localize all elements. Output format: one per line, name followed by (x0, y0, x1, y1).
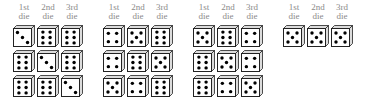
column-label: 1stdie (102, 3, 126, 21)
column-label-die: die (282, 12, 306, 21)
die-face-six-icon (193, 75, 215, 97)
die-face-six-icon (127, 50, 149, 72)
die-face-six-icon (61, 25, 83, 47)
dice-group-4: 1stdie2nddie3rddie (283, 0, 363, 105)
column-label: 2nddie (126, 3, 150, 21)
column-label: 3rddie (60, 3, 84, 21)
column-label-die: die (60, 12, 84, 21)
die-face-six-icon (61, 50, 83, 72)
column-label-die: die (126, 12, 150, 21)
column-label-die: die (216, 12, 240, 21)
dice-group-2: 1stdie2nddie3rddie (103, 0, 183, 105)
die-face-six-icon (37, 75, 59, 97)
die-face-four-icon (103, 25, 125, 47)
die-face-three-icon (61, 75, 83, 97)
die-face-four-icon (241, 25, 263, 47)
die-face-five-icon (331, 25, 353, 47)
die-face-six-icon (13, 75, 35, 97)
column-label-die: die (192, 12, 216, 21)
die-face-five-icon (241, 75, 263, 97)
column-label: 3rddie (330, 3, 354, 21)
column-label: 2nddie (36, 3, 60, 21)
column-label: 3rddie (240, 3, 264, 21)
die-face-four-icon (217, 75, 239, 97)
column-label-die: die (330, 12, 354, 21)
die-face-six-icon (193, 50, 215, 72)
column-label: 3rddie (150, 3, 174, 21)
column-label-die: die (102, 12, 126, 21)
die-face-five-icon (193, 25, 215, 47)
column-label: 1stdie (12, 3, 36, 21)
die-face-six-icon (151, 25, 173, 47)
column-label-die: die (12, 12, 36, 21)
die-face-six-icon (13, 50, 35, 72)
column-label: 2nddie (216, 3, 240, 21)
dice-group-3: 1stdie2nddie3rddie (193, 0, 273, 105)
die-face-five-icon (217, 50, 239, 72)
die-face-five-icon (103, 75, 125, 97)
dice-group-1: 1stdie2nddie3rddie (13, 0, 93, 105)
die-face-five-icon (307, 25, 329, 47)
column-label-die: die (306, 12, 330, 21)
die-face-five-icon (127, 25, 149, 47)
die-face-six-icon (151, 75, 173, 97)
column-label-die: die (36, 12, 60, 21)
column-label: 1stdie (192, 3, 216, 21)
die-face-four-icon (103, 50, 125, 72)
die-face-four-icon (127, 75, 149, 97)
die-face-five-icon (151, 50, 173, 72)
column-label: 2nddie (306, 3, 330, 21)
die-face-six-icon (37, 25, 59, 47)
die-face-six-icon (217, 25, 239, 47)
die-face-three-icon (13, 25, 35, 47)
column-label: 1stdie (282, 3, 306, 21)
die-face-five-icon (283, 25, 305, 47)
die-face-three-icon (37, 50, 59, 72)
column-label-die: die (150, 12, 174, 21)
column-label-die: die (240, 12, 264, 21)
die-face-four-icon (241, 50, 263, 72)
